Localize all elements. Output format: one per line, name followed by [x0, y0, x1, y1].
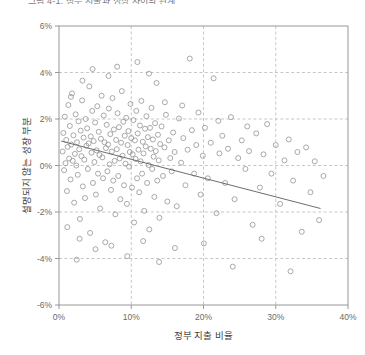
y-tick-label: -4%	[37, 254, 53, 264]
x-tick-label: 10%	[123, 312, 140, 322]
y-axis-title: 설명되지 않는 성장 부분	[21, 117, 32, 215]
x-tick-label: 0%	[53, 312, 66, 322]
y-tick-label: 0%	[40, 161, 53, 171]
tick-labels: 6%4%2%0%-2%-4%-6%0%10%20%30%40%	[37, 21, 357, 322]
y-tick-label: -2%	[37, 207, 53, 217]
scatter-chart: 6%4%2%0%-2%-4%-6%0%10%20%30%40% 정부 지출 비율…	[0, 0, 365, 355]
x-tick-label: 30%	[267, 312, 284, 322]
y-tick-label: 2%	[40, 114, 53, 124]
axis-ticks	[55, 26, 348, 309]
data-points	[60, 56, 326, 274]
x-axis-title: 정부 지출 비율	[174, 330, 233, 341]
y-tick-label: -6%	[37, 300, 53, 310]
gridlines	[59, 26, 348, 305]
y-tick-label: 4%	[40, 68, 53, 78]
x-tick-label: 20%	[195, 312, 212, 322]
y-tick-label: 6%	[40, 21, 53, 31]
x-tick-label: 40%	[339, 312, 356, 322]
